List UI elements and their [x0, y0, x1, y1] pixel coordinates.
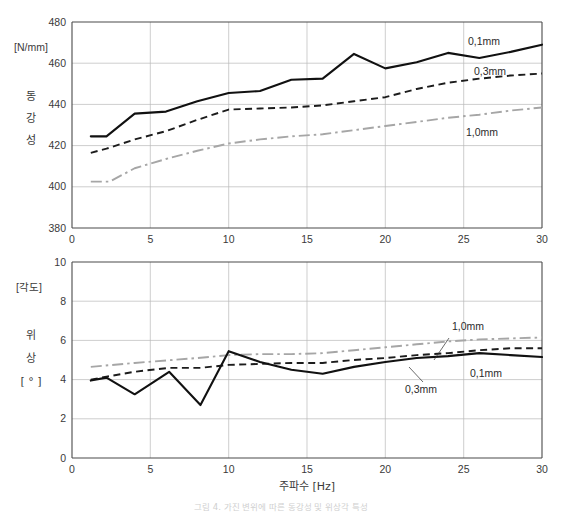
- bottom-label-0-1mm: 0,1mm: [470, 367, 502, 379]
- top-label-0-3mm: 0,3mm: [474, 65, 506, 77]
- bottom-x-axis-title: 주파수 [Hz]: [279, 480, 335, 493]
- top-ytick-480: 480: [48, 16, 66, 28]
- bottom-series-1-0mm: [91, 337, 542, 366]
- top-series-0-1mm: [91, 45, 542, 137]
- top-y-title-char-2: 강: [26, 112, 36, 125]
- bottom-y-unit-label: [각도]: [16, 281, 42, 293]
- top-label-1-0mm: 1,0mm: [466, 126, 498, 138]
- top-ytick-380: 380: [48, 222, 66, 234]
- bottom-ytick-4: 4: [60, 373, 66, 385]
- bottom-ytick-10: 10: [54, 256, 66, 268]
- top-xtick-30: 30: [536, 233, 548, 245]
- bottom-xtick-5: 5: [147, 463, 153, 475]
- top-y-title-char-1: 동: [26, 90, 36, 103]
- bottom-xtick-20: 20: [379, 463, 391, 475]
- bottom-xtick-0: 0: [69, 463, 75, 475]
- top-xtick-0: 0: [69, 233, 75, 245]
- top-ytick-440: 440: [48, 98, 66, 110]
- bottom-xtick-15: 15: [301, 463, 313, 475]
- bottom-label-1-0mm: 1,0mm: [452, 320, 484, 332]
- top-xtick-15: 15: [301, 233, 313, 245]
- bottom-ytick-0: 0: [60, 452, 66, 464]
- top-label-0-1mm: 0,1mm: [468, 35, 500, 47]
- top-ytick-400: 400: [48, 180, 66, 192]
- bottom-label-0-3mm: 0,3mm: [405, 383, 437, 395]
- top-y-title-char-3: 성: [26, 134, 36, 147]
- top-ytick-420: 420: [48, 139, 66, 151]
- bottom-y-title-char-2: 상: [26, 352, 36, 365]
- bottom-ytick-8: 8: [60, 295, 66, 307]
- top-xtick-25: 25: [458, 233, 470, 245]
- top-y-unit-label: [N/mm]: [14, 41, 48, 53]
- top-xtick-5: 5: [147, 233, 153, 245]
- top-ytick-460: 460: [48, 57, 66, 69]
- top-xtick-10: 10: [223, 233, 235, 245]
- bottom-xtick-10: 10: [223, 463, 235, 475]
- figure-caption: 그림 4. 가진 변위에 따른 동강성 및 위상각 특성: [0, 500, 562, 512]
- top-xtick-20: 20: [379, 233, 391, 245]
- bottom-xtick-30: 30: [536, 463, 548, 475]
- chart-phase-angle: 0 2 4 6 8 10 0 5 10 15 20 25 30 [각도] 위 상…: [16, 256, 548, 494]
- bottom-ytick-2: 2: [60, 412, 66, 424]
- bottom-y-title-char-3: [ ° ]: [20, 375, 41, 388]
- top-series-1-0mm: [91, 107, 542, 181]
- bottom-y-title-char-1: 위: [26, 329, 36, 342]
- chart-dynamic-stiffness: 380 400 420 440 460 480 0 5 10 15 20 25 …: [14, 16, 548, 246]
- bottom-gridlines: [72, 262, 542, 458]
- bottom-ytick-6: 6: [60, 334, 66, 346]
- bottom-xtick-25: 25: [458, 463, 470, 475]
- top-gridlines: [72, 22, 542, 228]
